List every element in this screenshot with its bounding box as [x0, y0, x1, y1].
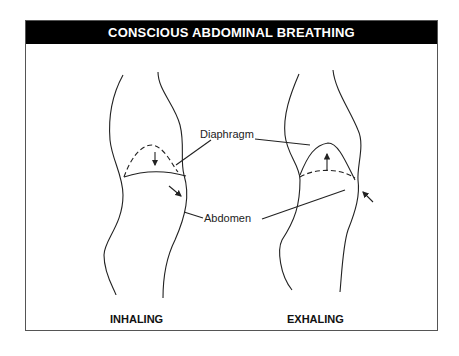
- abdomen-label: Abdomen: [204, 212, 251, 224]
- caption-inhaling: INHALING: [110, 313, 163, 325]
- exhaling-torso: [280, 70, 373, 292]
- diaphragm-label: Diaphragm: [200, 128, 254, 140]
- inhaling-torso: [104, 72, 187, 298]
- caption-exhaling: EXHALING: [287, 313, 344, 325]
- breathing-illustration: [0, 0, 459, 356]
- abdomen-leader-left: [184, 212, 203, 218]
- abdomen-leader-right: [262, 190, 345, 219]
- diaphragm-leader-left: [176, 140, 211, 165]
- diaphragm-leader-right: [255, 139, 310, 145]
